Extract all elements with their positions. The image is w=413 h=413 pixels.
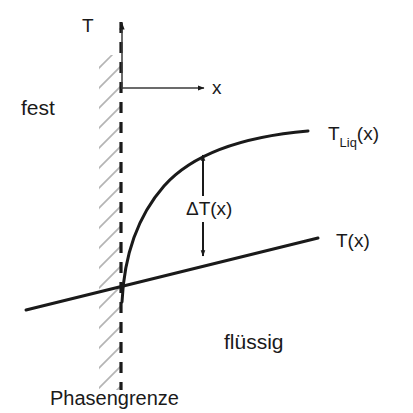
liquidus-label-tail: (x) [357,123,379,144]
phase-boundary-label: Phasengrenze [50,388,179,408]
temperature-line [26,238,318,310]
liquidus-label-main: T [328,123,340,144]
liquid-region-label: flüssig [224,331,284,352]
liquidus-curve-label: TLiq(x) [328,124,379,148]
delta-t-label: ΔT(x) [186,199,232,218]
hatching-solid-region [95,44,123,412]
liquidus-label-subscript: Liq [340,135,357,150]
phase-boundary-diagram: T x fest TLiq(x) ΔT(x) T(x) flüssig Phas… [0,0,413,413]
solid-region-label: fest [21,97,55,118]
t-axis-label: T [82,16,94,35]
x-axis-label: x [212,78,222,97]
temperature-line-label: T(x) [336,231,370,250]
